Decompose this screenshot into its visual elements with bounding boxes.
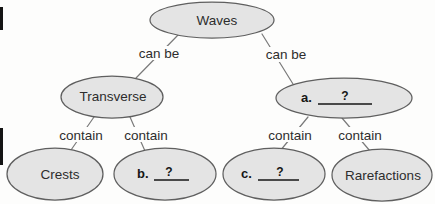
edge-label-contain-3: contain — [268, 128, 312, 143]
node-rarefactions-label: Rarefactions — [345, 168, 421, 183]
node-crests-label: Crests — [40, 167, 79, 182]
scan-artifact-left — [0, 128, 3, 165]
node-blank-b: b. ? — [114, 148, 216, 200]
edge-label-can-be-right: can be — [266, 47, 307, 62]
node-blank-c: c. ? — [223, 148, 325, 200]
node-blank-c-prefix: c. — [241, 166, 252, 181]
node-waves: Waves — [150, 2, 274, 38]
edge-label-can-be-left: can be — [139, 46, 180, 61]
scan-artifact-top-left — [0, 7, 3, 30]
node-blank-b-question-mark: ? — [165, 165, 172, 179]
node-transverse-label: Transverse — [79, 89, 146, 104]
edge-label-contain-1: contain — [59, 128, 103, 143]
edge-label-contain-2: contain — [124, 128, 168, 143]
waves-concept-map: can be can be contain contain contain co… — [0, 0, 435, 204]
node-blank-a-question-mark: ? — [341, 89, 348, 103]
node-blank-b-prefix: b. — [137, 166, 149, 181]
node-blank-c-question-mark: ? — [276, 165, 283, 179]
node-rarefactions: Rarefactions — [332, 149, 432, 201]
node-crests: Crests — [7, 148, 103, 200]
edge-label-contain-4: contain — [338, 128, 382, 143]
node-blank-c-ellipse — [223, 148, 325, 200]
node-blank-a-prefix: a. — [301, 90, 312, 105]
diagram-canvas: can be can be contain contain contain co… — [0, 0, 435, 204]
node-blank-a: a. ? — [276, 78, 412, 118]
node-transverse: Transverse — [61, 76, 163, 118]
node-waves-label: Waves — [197, 13, 238, 28]
